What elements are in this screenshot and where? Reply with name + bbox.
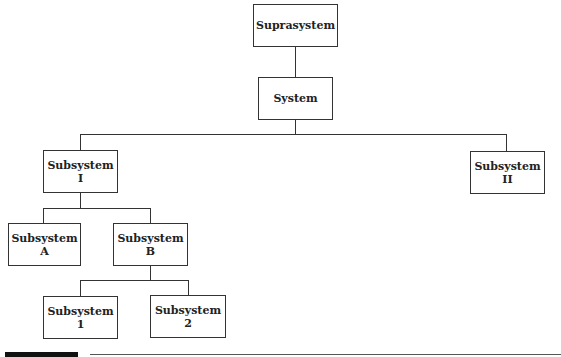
node-label: Subsystem [155, 304, 221, 317]
footer-rule [90, 354, 561, 355]
node-label: Subsystem [117, 232, 183, 245]
node-subsystem-1: Subsystem 1 [43, 296, 118, 339]
connector-to-subsystem-1 [80, 280, 81, 296]
node-label: Subsystem [474, 160, 540, 173]
connector-level2-horizontal [80, 134, 507, 135]
node-suprasystem: Suprasystem [253, 4, 338, 47]
connector-to-subsystem-i [80, 134, 81, 150]
connector-level3-horizontal [43, 208, 151, 209]
connector-level4-horizontal [80, 280, 189, 281]
node-label: Subsystem [11, 232, 77, 245]
node-sublabel: I [78, 172, 83, 185]
node-sublabel: B [146, 245, 155, 258]
hierarchy-diagram: Suprasystem System Subsystem I Subsystem… [0, 0, 561, 357]
node-system: System [258, 77, 333, 120]
node-subsystem-a: Subsystem A [8, 223, 81, 266]
node-sublabel: II [502, 173, 512, 186]
node-sublabel: 1 [77, 318, 85, 331]
footer-black-bar [5, 352, 78, 357]
connector-suprasystem-system [295, 46, 296, 77]
connector-to-subsystem-a [43, 208, 44, 223]
node-subsystem-ii: Subsystem II [470, 151, 545, 194]
connector-to-subsystem-ii [506, 134, 507, 151]
node-label: Suprasystem [256, 19, 335, 32]
node-subsystem-2: Subsystem 2 [150, 295, 226, 338]
node-label: Subsystem [47, 305, 113, 318]
node-label: Subsystem [47, 159, 113, 172]
node-sublabel: A [40, 245, 49, 258]
node-subsystem-b: Subsystem B [113, 223, 188, 266]
node-subsystem-i: Subsystem I [43, 150, 118, 193]
connector-to-subsystem-b [150, 208, 151, 223]
connector-subsystem-b-down [150, 265, 151, 280]
node-sublabel: 2 [184, 317, 192, 330]
connector-to-subsystem-2 [188, 280, 189, 295]
connector-system-down [295, 119, 296, 135]
connector-subsystem-i-down [80, 192, 81, 208]
node-label: System [273, 92, 317, 105]
